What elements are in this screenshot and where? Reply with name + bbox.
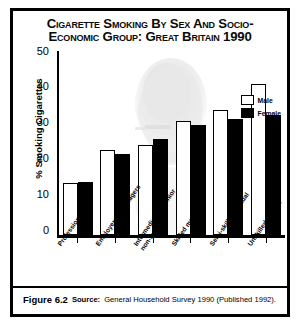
y-tick-40: 40 — [23, 80, 49, 92]
chart-title: Cigarette Smoking By Sex and Socio- Econ… — [13, 17, 287, 44]
y-axis-tick-labels: 50 40 30 20 10 0 — [23, 51, 49, 241]
caption-source-label: Source: — [72, 295, 100, 304]
figure-container: Cigarette Smoking By Sex and Socio- Econ… — [10, 8, 290, 317]
chart-title-line-1: Cigarette Smoking By Sex and Socio- — [13, 17, 287, 30]
caption-divider — [13, 286, 287, 288]
y-tick-50: 50 — [23, 45, 49, 57]
legend-item-female: Female — [241, 108, 281, 118]
male-swatch-icon — [241, 95, 254, 105]
legend-item-male: Male — [241, 95, 281, 105]
y-tick-10: 10 — [23, 188, 49, 200]
y-tick-0: 0 — [23, 224, 49, 236]
legend-label-male: Male — [258, 97, 273, 104]
y-tick-20: 20 — [23, 152, 49, 164]
female-swatch-icon — [241, 108, 254, 118]
y-tick-30: 30 — [23, 116, 49, 128]
plot-area: % Smoking Cigarettes 50 40 30 20 10 0 — [13, 51, 287, 271]
chart-title-line-2: Economic Group: Great Britain 1990 — [13, 30, 287, 43]
figure-caption: Figure 6.2 Source: General Household Sur… — [23, 289, 276, 309]
caption-figure-number: Figure 6.2 — [23, 294, 68, 305]
caption-source-text: General Household Survey 1990 (Published… — [104, 295, 276, 304]
chart-legend: Male Female — [241, 95, 281, 118]
legend-label-female: Female — [258, 110, 281, 117]
